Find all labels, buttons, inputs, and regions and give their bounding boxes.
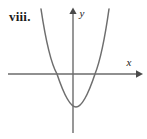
x-axis-label: x <box>126 56 132 68</box>
y-axis-label: y <box>79 7 85 19</box>
parabola-curve-group <box>41 9 109 107</box>
graph-canvas: x y <box>0 0 147 139</box>
y-axis-group: y <box>69 7 84 133</box>
x-axis-arrowhead <box>136 70 143 77</box>
x-axis-group: x <box>8 56 143 78</box>
parabola-curve <box>41 9 109 107</box>
y-axis-arrowhead <box>69 8 76 15</box>
figure-container: viii. x y <box>0 0 147 139</box>
